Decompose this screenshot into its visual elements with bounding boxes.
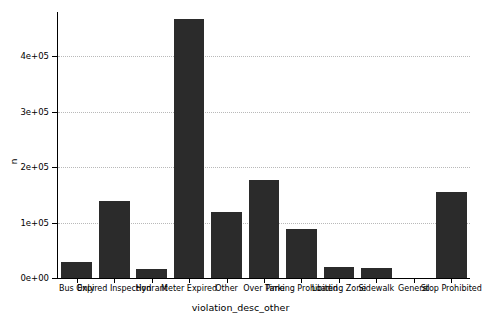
- bar: [174, 19, 205, 278]
- x-tick-mark: [77, 279, 78, 283]
- plot-panel: [58, 12, 470, 278]
- x-tick-mark: [376, 279, 377, 283]
- x-tick-mark: [152, 279, 153, 283]
- y-tick-mark: [52, 278, 57, 279]
- x-tick-label: Meter Expired: [161, 285, 217, 293]
- y-tick-mark: [52, 112, 57, 113]
- gridline: [58, 167, 470, 168]
- y-tick-label: 4e+05: [0, 52, 49, 61]
- y-tick-mark: [52, 167, 57, 168]
- x-axis-title: violation_desc_other: [0, 303, 481, 313]
- x-tick-label: Stop Prohibited: [421, 285, 482, 293]
- x-tick-label: Other: [215, 285, 238, 293]
- bar: [249, 180, 280, 278]
- x-tick-mark: [301, 279, 302, 283]
- x-tick-mark: [339, 279, 340, 283]
- gridline: [58, 112, 470, 113]
- bar: [99, 201, 130, 278]
- gridline: [58, 56, 470, 57]
- bar: [286, 229, 317, 278]
- bar: [136, 269, 167, 278]
- y-tick-label: 1e+05: [0, 218, 49, 227]
- bar: [436, 192, 467, 278]
- x-tick-mark: [227, 279, 228, 283]
- x-tick-mark: [264, 279, 265, 283]
- x-tick-mark: [414, 279, 415, 283]
- y-tick-mark: [52, 56, 57, 57]
- y-tick-label: 2e+05: [0, 163, 49, 172]
- y-tick-label: 0e+00: [0, 274, 49, 283]
- x-tick-label: Sidewalk: [359, 285, 395, 293]
- y-tick-mark: [52, 223, 57, 224]
- bar: [61, 262, 92, 278]
- bar: [361, 268, 392, 278]
- y-tick-label: 3e+05: [0, 108, 49, 117]
- x-tick-mark: [114, 279, 115, 283]
- x-tick-mark: [189, 279, 190, 283]
- bar: [324, 267, 355, 278]
- bar: [211, 212, 242, 279]
- x-tick-mark: [451, 279, 452, 283]
